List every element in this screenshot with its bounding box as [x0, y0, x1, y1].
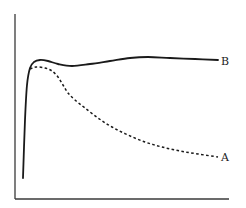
series-a-line: [30, 67, 218, 157]
series-a-label: A: [220, 151, 230, 164]
series-b-line: [23, 57, 218, 178]
series-b-label: B: [221, 55, 229, 68]
line-chart: B A: [0, 0, 246, 208]
